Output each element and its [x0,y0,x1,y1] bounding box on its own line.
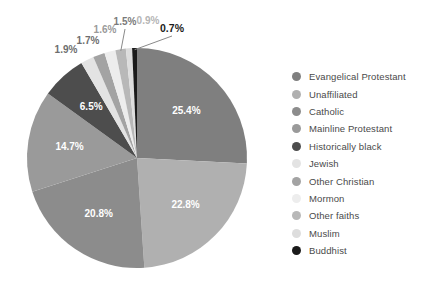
pie-chart-figure: 25.4%22.8%20.8%14.7%6.5%1.9%1.7%1.6%1.5%… [0,0,439,294]
legend-item-label: Mainline Protestant [309,123,392,134]
pie-slice-value-label: 0.9% [137,15,160,26]
legend-item[interactable]: Buddhist [292,242,437,259]
legend-item[interactable]: Other Christian [292,172,437,189]
legend-color-swatch-icon [292,124,301,133]
legend-color-swatch-icon [292,107,301,116]
legend-item[interactable]: Unaffiliated [292,85,437,102]
legend-item[interactable]: Other faiths [292,207,437,224]
legend-color-swatch-icon [292,177,301,186]
legend-item-label: Other faiths [309,210,359,221]
legend-item-label: Unaffiliated [309,89,358,100]
pie-label-leader-line [135,36,172,50]
legend-item-label: Evangelical Protestant [309,71,406,82]
pie-label-leader-line [121,29,125,51]
chart-legend: Evangelical ProtestantUnaffiliatedCathol… [292,68,437,259]
legend-color-swatch-icon [292,90,301,99]
pie-slice-value-label: 25.4% [172,105,200,116]
legend-item-label: Catholic [309,106,344,117]
legend-color-swatch-icon [292,159,301,168]
legend-item[interactable]: Jewish [292,155,437,172]
pie-slice[interactable] [137,158,247,268]
legend-color-swatch-icon [292,72,301,81]
pie-slice-value-label: 22.8% [171,199,199,210]
legend-color-swatch-icon [292,246,301,255]
pie-slice-value-label: 20.8% [85,208,113,219]
legend-item[interactable]: Catholic [292,103,437,120]
legend-item[interactable]: Mainline Protestant [292,120,437,137]
pie-slice-value-label: 1.9% [55,44,78,55]
legend-item[interactable]: Muslim [292,225,437,242]
legend-item[interactable]: Mormon [292,190,437,207]
legend-item-label: Historically black [309,141,382,152]
legend-color-swatch-icon [292,142,301,151]
legend-item[interactable]: Evangelical Protestant [292,68,437,85]
pie-slice-value-label: 6.5% [80,101,103,112]
legend-item-label: Other Christian [309,176,374,187]
legend-item-label: Mormon [309,193,344,204]
pie-slice-value-label: 1.5% [114,16,137,27]
legend-item-label: Buddhist [309,245,347,256]
legend-color-swatch-icon [292,211,301,220]
pie-slice-value-label: 1.7% [77,35,100,46]
legend-color-swatch-icon [292,194,301,203]
legend-item[interactable]: Historically black [292,138,437,155]
legend-item-label: Muslim [309,228,340,239]
legend-item-label: Jewish [309,158,339,169]
pie-slice-value-label: 0.7% [160,22,185,34]
pie-slice-value-label: 14.7% [55,141,83,152]
legend-color-swatch-icon [292,229,301,238]
pie-slices-group [27,48,247,268]
